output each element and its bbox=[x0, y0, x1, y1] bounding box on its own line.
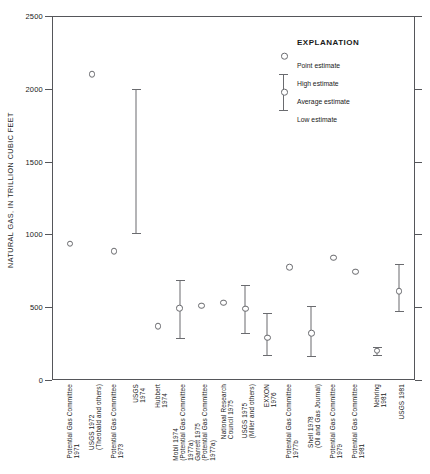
chart-legend: EXPLANATION Point estimateHigh estimateA… bbox=[255, 38, 405, 128]
x-axis-label: Potential Gas Committee1979 bbox=[329, 384, 344, 459]
x-axis-label-line: USGS bbox=[131, 384, 138, 403]
x-axis-label: Nehring1981 bbox=[373, 384, 388, 407]
x-axis-label: Potential Gas Committee1971 bbox=[66, 384, 81, 459]
x-axis-label-line: (Oil and Gas Journal) bbox=[314, 384, 321, 448]
x-axis-label-line: National Research bbox=[219, 384, 226, 439]
x-axis-label: Potential Gas Committee1973 bbox=[109, 384, 124, 459]
x-axis-label-line: Potential Gas Committee bbox=[109, 384, 116, 459]
x-axis-label: National ResearchCouncil 1975 bbox=[219, 384, 234, 439]
high-estimate-cap bbox=[395, 264, 404, 265]
x-axis-label-line: Garrett 1975 bbox=[193, 384, 200, 461]
y-tick-label: 0 bbox=[39, 376, 43, 385]
average-estimate-marker bbox=[264, 334, 271, 341]
low-estimate-cap bbox=[176, 338, 185, 339]
y-tick-right bbox=[415, 162, 422, 163]
low-estimate-cap bbox=[132, 233, 141, 234]
high-estimate-cap bbox=[307, 306, 316, 307]
y-tick bbox=[45, 307, 52, 308]
legend-title: EXPLANATION bbox=[297, 38, 405, 47]
x-axis-label: EXXON1976 bbox=[263, 384, 278, 407]
x-axis-label-line: (Miller and others) bbox=[248, 384, 255, 438]
y-tick-label: 2500 bbox=[26, 12, 44, 21]
average-estimate-marker bbox=[308, 330, 315, 337]
x-axis-label-line: 1971 bbox=[73, 384, 80, 459]
legend-item: Low estimate bbox=[255, 110, 405, 128]
y-tick-right bbox=[415, 380, 422, 381]
x-axis-label-line: 1974 bbox=[139, 384, 146, 403]
y-tick bbox=[45, 89, 52, 90]
y-tick bbox=[45, 162, 52, 163]
x-axis-label-line: 1976 bbox=[270, 384, 277, 407]
point-estimate-marker bbox=[89, 71, 96, 78]
point-estimate-marker bbox=[220, 300, 227, 307]
x-axis-label-line: 1977a) bbox=[186, 384, 193, 461]
y-tick bbox=[45, 234, 52, 235]
x-axis-label: Potential Gas Committee1977b bbox=[285, 384, 300, 459]
x-axis-label-line: (Theobald and others) bbox=[95, 384, 102, 450]
x-axis-label: USGS 1981 bbox=[398, 384, 405, 419]
average-estimate-marker bbox=[374, 348, 381, 355]
x-axis-label-line: Council 1975 bbox=[227, 384, 234, 439]
x-axis-label: Garrett 1975(Potential Gas Committee1977… bbox=[193, 384, 215, 461]
low-estimate-cap bbox=[373, 355, 382, 356]
x-axis-label-line: 1977b bbox=[292, 384, 299, 459]
legend-item-label: Average estimate bbox=[297, 98, 350, 105]
x-axis-label-line: USGS 1981 bbox=[398, 384, 405, 419]
legend-item: Point estimate bbox=[255, 56, 405, 74]
x-axis-label: Shell 1978(Oil and Gas Journal) bbox=[307, 384, 322, 448]
x-axis-label-line: 1981 bbox=[380, 384, 387, 407]
point-estimate-marker bbox=[352, 268, 359, 275]
x-axis-label: Hubbert1974 bbox=[153, 384, 168, 408]
x-axis-label: Mobil 1974(Potential Gas Committee1977a) bbox=[172, 384, 194, 461]
y-tick bbox=[45, 380, 52, 381]
y-tick bbox=[45, 16, 52, 17]
x-axis-label-line: Mobil 1974 bbox=[172, 384, 179, 461]
x-axis-label-line: Nehring bbox=[373, 384, 380, 407]
y-tick-label: 2000 bbox=[26, 84, 44, 93]
x-axis-label: USGS1974 bbox=[131, 384, 146, 403]
high-estimate-cap bbox=[176, 280, 185, 281]
point-estimate-marker bbox=[111, 248, 118, 255]
range-line bbox=[135, 89, 136, 233]
x-axis-label-line: Potential Gas Committee bbox=[66, 384, 73, 459]
x-axis-label-line: 1979 bbox=[336, 384, 343, 459]
high-estimate-cap bbox=[241, 285, 250, 286]
point-estimate-marker bbox=[155, 323, 162, 330]
y-tick-label: 1000 bbox=[26, 230, 44, 239]
x-axis-label: USGS 1975(Miller and others) bbox=[241, 384, 256, 438]
average-estimate-marker bbox=[242, 305, 249, 312]
point-estimate-marker bbox=[286, 264, 293, 271]
y-tick-label: 500 bbox=[30, 303, 43, 312]
average-estimate-marker bbox=[176, 305, 183, 312]
y-tick-right bbox=[415, 16, 422, 17]
legend-item-label: High estimate bbox=[297, 80, 339, 87]
legend-item-label: Low estimate bbox=[297, 116, 337, 123]
x-axis-label-line: 1974 bbox=[161, 384, 168, 408]
legend-item: High estimate bbox=[255, 74, 405, 92]
low-estimate-cap bbox=[307, 356, 316, 357]
low-estimate-cap bbox=[241, 333, 250, 334]
legend-item-label: Point estimate bbox=[297, 62, 340, 69]
point-estimate-marker bbox=[330, 254, 337, 261]
legend-rows: Point estimateHigh estimateAverage estim… bbox=[255, 56, 405, 128]
low-estimate-cap bbox=[395, 311, 404, 312]
x-axis-label-line: 1977a) bbox=[208, 384, 215, 461]
y-axis-title: NATURAL GAS, IN TRILLION CUBIC FEET bbox=[6, 112, 15, 268]
average-estimate-marker bbox=[396, 288, 403, 295]
high-estimate-cap bbox=[263, 313, 272, 314]
low-estimate-cap bbox=[263, 355, 272, 356]
point-estimate-marker bbox=[198, 302, 205, 309]
y-tick-right bbox=[415, 307, 422, 308]
x-axis-label-line: (Potential Gas Committee bbox=[201, 384, 208, 461]
x-axis-label-line: USGS 1972 bbox=[88, 384, 95, 450]
x-axis-label-line: 1981 bbox=[358, 384, 365, 459]
x-axis-label-line: Hubbert bbox=[153, 384, 160, 408]
x-axis-label-line: Potential Gas Committee bbox=[351, 384, 358, 459]
y-tick-right bbox=[415, 234, 422, 235]
high-estimate-cap bbox=[132, 89, 141, 90]
point-estimate-marker bbox=[67, 241, 74, 248]
x-axis-label-line: (Potential Gas Committee bbox=[179, 384, 186, 461]
x-axis-label-line: 1973 bbox=[117, 384, 124, 459]
legend-item: Average estimate bbox=[255, 92, 405, 110]
x-axis-label: Potential Gas Committee1981 bbox=[351, 384, 366, 459]
